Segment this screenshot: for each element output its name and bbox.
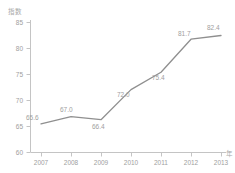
y-tick-label: 80 bbox=[5, 45, 23, 52]
x-tick-label: 2012 bbox=[178, 159, 204, 166]
y-tick-marks bbox=[27, 23, 31, 153]
y-tick-label: 85 bbox=[5, 19, 23, 26]
y-tick-label: 60 bbox=[5, 149, 23, 156]
x-tick-label: 2011 bbox=[148, 159, 174, 166]
plot-area bbox=[0, 0, 235, 173]
data-point-label: 65.6 bbox=[26, 114, 39, 121]
x-tick-label: 2010 bbox=[118, 159, 144, 166]
data-point-label: 82.4 bbox=[207, 24, 220, 31]
y-tick-label: 75 bbox=[5, 71, 23, 78]
data-point-label: 67.0 bbox=[60, 106, 73, 113]
x-tick-label: 2009 bbox=[88, 159, 114, 166]
y-tick-label: 65 bbox=[5, 123, 23, 130]
x-tick-marks bbox=[42, 153, 222, 157]
data-point-label: 75.4 bbox=[152, 74, 165, 81]
chart-container: 指数 年 bbox=[0, 0, 235, 173]
x-tick-label: 2007 bbox=[28, 159, 54, 166]
x-tick-label: 2013 bbox=[208, 159, 234, 166]
line-chart-svg bbox=[0, 0, 235, 173]
x-tick-label: 2008 bbox=[58, 159, 84, 166]
y-tick-label: 70 bbox=[5, 97, 23, 104]
data-point-label: 81.7 bbox=[178, 30, 191, 37]
data-point-label: 66.4 bbox=[92, 123, 105, 130]
data-point-label: 72.0 bbox=[117, 91, 130, 98]
